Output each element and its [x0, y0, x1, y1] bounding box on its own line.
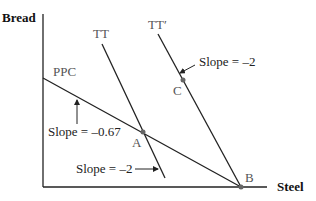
- tt-prime-label: TT′: [148, 17, 167, 32]
- ppc-terms-of-trade-diagram: Bread Steel PPC TT TT′ Slope = –0.67 Slo…: [0, 0, 316, 201]
- ppc-label: PPC: [53, 64, 76, 79]
- x-axis-label: Steel: [277, 179, 304, 194]
- tt-prime-slope-arrow: [180, 65, 195, 73]
- point-b-label: B: [245, 170, 254, 185]
- point-a: [141, 130, 146, 135]
- point-b: [239, 185, 244, 190]
- ppc-slope-label: Slope = –0.67: [48, 124, 121, 139]
- tt-prime-slope-label: Slope = –2: [199, 54, 255, 69]
- tt-slope-label: Slope = –2: [76, 161, 132, 176]
- tt-label: TT: [93, 26, 109, 41]
- tt-line: [102, 44, 165, 178]
- y-axis-label: Bread: [2, 10, 36, 25]
- point-c-label: C: [173, 83, 182, 98]
- point-c: [181, 78, 186, 83]
- point-a-label: A: [132, 135, 142, 150]
